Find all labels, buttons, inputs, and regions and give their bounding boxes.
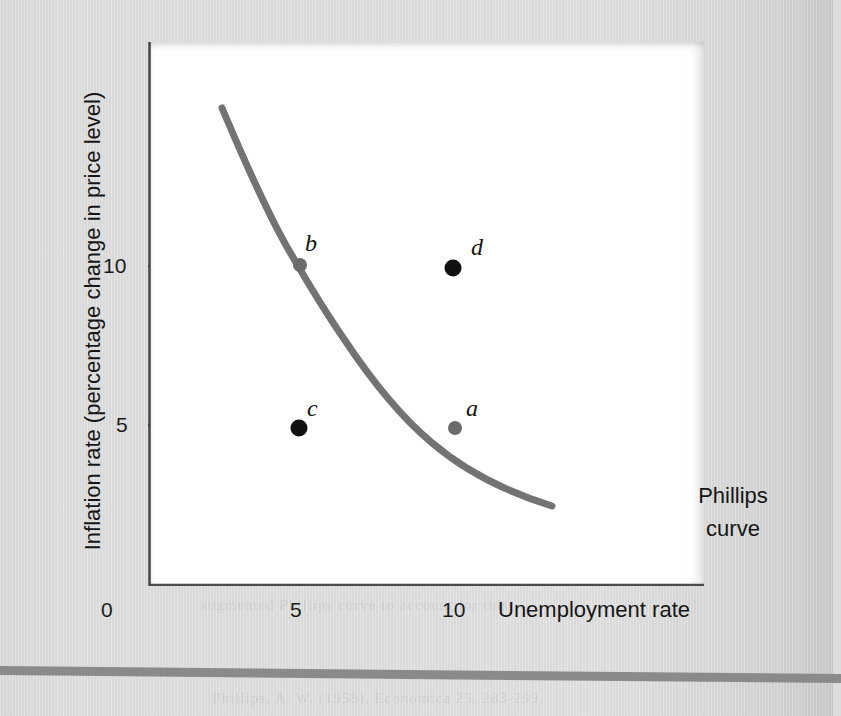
y-tick-label-10: 10: [103, 254, 126, 278]
data-point-label-b: b: [305, 230, 317, 257]
data-point-label-a: a: [466, 395, 478, 422]
data-point-label-c: c: [307, 395, 318, 422]
data-point-b[interactable]: [293, 258, 307, 272]
x-tick-label-10: 10: [442, 598, 465, 622]
phillips-curve-annotation-line1: Phillips: [678, 479, 788, 512]
phillips-curve-plot: [148, 42, 704, 586]
x-axis-title: Unemployment rate: [498, 597, 690, 623]
data-point-d[interactable]: [445, 260, 462, 277]
axis-lines: [150, 42, 705, 585]
data-point-c[interactable]: [291, 420, 308, 437]
phillips-curve-line: [222, 108, 552, 506]
phillips-curve-annotation-line2: curve: [678, 512, 788, 545]
data-point-label-d: d: [471, 234, 483, 261]
chart-panel: b d c a Phillips curve: [148, 42, 704, 586]
x-origin-label-0: 0: [101, 598, 113, 622]
y-tick-label-5: 5: [116, 413, 128, 437]
phillips-curve-annotation: Phillips curve: [678, 479, 788, 545]
y-axis-title: Inflation rate (percentage change in pri…: [80, 61, 106, 581]
data-point-a[interactable]: [448, 421, 462, 435]
x-tick-label-5: 5: [290, 598, 302, 622]
